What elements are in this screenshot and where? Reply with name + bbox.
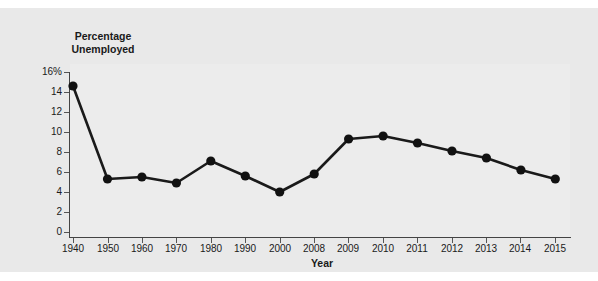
data-point-2000 (275, 187, 284, 196)
data-point-2015 (551, 174, 560, 183)
data-point-1940 (68, 81, 77, 90)
unemployment-markers (68, 81, 560, 196)
x-axis-title: Year (0, 257, 598, 269)
data-point-2011 (413, 138, 422, 147)
data-point-2009 (344, 134, 353, 143)
data-point-2014 (516, 165, 525, 174)
cropped-caption-sliver (0, 0, 598, 8)
unemployment-line-chart-figure: Percentage Unemployed 16% 14 12 10 8 6 4… (0, 0, 598, 281)
x-axis-title-text: Year (311, 257, 333, 269)
data-point-2013 (482, 153, 491, 162)
data-point-1980 (206, 156, 215, 165)
data-point-1990 (241, 171, 250, 180)
chart-panel: Percentage Unemployed 16% 14 12 10 8 6 4… (0, 8, 598, 272)
data-point-1950 (103, 174, 112, 183)
data-point-1970 (172, 178, 181, 187)
data-point-2010 (379, 131, 388, 140)
data-point-1960 (137, 172, 146, 181)
data-point-2012 (447, 146, 456, 155)
data-series-svg (0, 8, 598, 272)
data-point-2008 (310, 169, 319, 178)
